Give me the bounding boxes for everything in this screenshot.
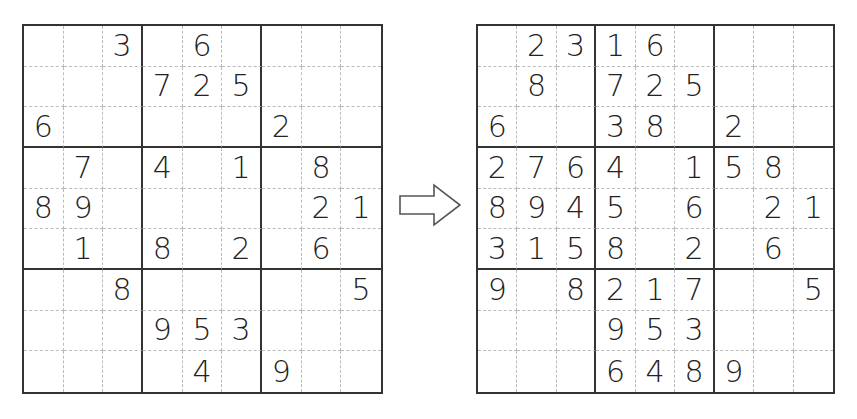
sudoku-cell (64, 351, 104, 392)
sudoku-cell: 9 (143, 311, 183, 352)
sudoku-cell (478, 311, 517, 352)
sudoku-cell: 7 (596, 67, 635, 108)
sudoku-cell: 2 (478, 148, 517, 189)
sudoku-cell (517, 351, 556, 392)
sudoku-cell: 8 (596, 229, 635, 270)
sudoku-cell (794, 229, 833, 270)
sudoku-cell (302, 351, 342, 392)
sudoku-cell: 3 (596, 107, 635, 148)
sudoku-cell: 7 (64, 148, 104, 189)
sudoku-cell (636, 229, 675, 270)
sudoku-cell: 1 (596, 26, 635, 67)
sudoku-puzzle-grid: 36725627418892118268595349 (22, 24, 383, 394)
sudoku-cell (517, 107, 556, 148)
sudoku-cell (262, 270, 302, 311)
right-arrow-icon (398, 183, 462, 227)
sudoku-cell: 2 (596, 270, 635, 311)
sudoku-cell: 5 (636, 311, 675, 352)
sudoku-cell (675, 26, 714, 67)
sudoku-cell (341, 67, 381, 108)
sudoku-cell: 8 (478, 189, 517, 230)
sudoku-cell: 2 (636, 67, 675, 108)
sudoku-cell (341, 107, 381, 148)
sudoku-cell (222, 107, 262, 148)
sudoku-cell: 2 (675, 229, 714, 270)
sudoku-cell (143, 351, 183, 392)
sudoku-cell: 9 (596, 311, 635, 352)
sudoku-cell: 6 (636, 26, 675, 67)
sudoku-cell (24, 270, 64, 311)
sudoku-cell: 5 (557, 229, 596, 270)
sudoku-cell (754, 351, 793, 392)
sudoku-cell: 8 (557, 270, 596, 311)
sudoku-cell: 6 (183, 26, 223, 67)
sudoku-cell: 4 (557, 189, 596, 230)
sudoku-cell: 4 (143, 148, 183, 189)
sudoku-cell (262, 189, 302, 230)
sudoku-cell (143, 270, 183, 311)
sudoku-cell: 4 (596, 148, 635, 189)
sudoku-cell (715, 270, 754, 311)
sudoku-cell (103, 67, 143, 108)
sudoku-cell: 3 (675, 311, 714, 352)
sudoku-cell: 6 (596, 351, 635, 392)
sudoku-cell (183, 148, 223, 189)
sudoku-cell (64, 270, 104, 311)
sudoku-cell: 5 (596, 189, 635, 230)
sudoku-cell: 3 (478, 229, 517, 270)
sudoku-cell (557, 107, 596, 148)
sudoku-cell (675, 107, 714, 148)
sudoku-cell (754, 107, 793, 148)
sudoku-cell (222, 270, 262, 311)
sudoku-cell: 1 (794, 189, 833, 230)
sudoku-cell: 8 (675, 351, 714, 392)
sudoku-cell (794, 107, 833, 148)
sudoku-cell: 5 (715, 148, 754, 189)
sudoku-cell (636, 148, 675, 189)
sudoku-cell (557, 67, 596, 108)
sudoku-cell (754, 26, 793, 67)
sudoku-cell: 9 (64, 189, 104, 230)
sudoku-cell (715, 311, 754, 352)
sudoku-cell: 6 (302, 229, 342, 270)
sudoku-cell (143, 107, 183, 148)
sudoku-cell (715, 26, 754, 67)
sudoku-cell: 5 (222, 67, 262, 108)
sudoku-cell: 1 (675, 148, 714, 189)
sudoku-cell: 8 (143, 229, 183, 270)
sudoku-cell: 4 (636, 351, 675, 392)
sudoku-cell (64, 67, 104, 108)
sudoku-cell (794, 351, 833, 392)
sudoku-cell (794, 26, 833, 67)
sudoku-cell (794, 311, 833, 352)
sudoku-cell: 1 (64, 229, 104, 270)
sudoku-cell: 2 (183, 67, 223, 108)
sudoku-cell: 9 (478, 270, 517, 311)
sudoku-progress-grid: 2316872563822764158894562131582698217595… (476, 24, 835, 394)
sudoku-cell (636, 189, 675, 230)
sudoku-cell: 5 (183, 311, 223, 352)
sudoku-cell (183, 270, 223, 311)
sudoku-cell (24, 26, 64, 67)
sudoku-cell (24, 148, 64, 189)
sudoku-cell: 8 (636, 107, 675, 148)
sudoku-cell: 6 (24, 107, 64, 148)
sudoku-cell: 3 (557, 26, 596, 67)
sudoku-cell (103, 351, 143, 392)
sudoku-cell (222, 26, 262, 67)
sudoku-cell (302, 107, 342, 148)
sudoku-cell: 3 (222, 311, 262, 352)
sudoku-cell: 5 (675, 67, 714, 108)
sudoku-cell: 3 (103, 26, 143, 67)
sudoku-cell (64, 107, 104, 148)
sudoku-cell (262, 67, 302, 108)
sudoku-cell: 8 (754, 148, 793, 189)
sudoku-cell (64, 311, 104, 352)
sudoku-cell (478, 67, 517, 108)
sudoku-cell: 8 (302, 148, 342, 189)
sudoku-cell (715, 189, 754, 230)
sudoku-cell: 2 (262, 107, 302, 148)
sudoku-cell (478, 351, 517, 392)
sudoku-cell (143, 189, 183, 230)
sudoku-cell (24, 67, 64, 108)
